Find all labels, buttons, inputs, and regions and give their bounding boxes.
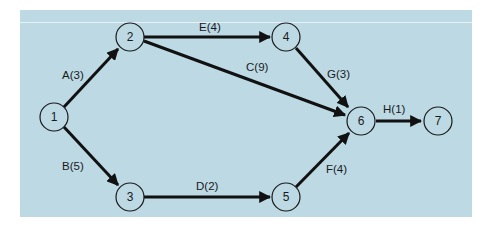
edge-c-label: C(9) (246, 61, 269, 73)
node-5-label: 5 (283, 190, 290, 204)
edge-e-label: E(4) (199, 21, 221, 33)
edge-c-arrow (144, 41, 345, 115)
edge-a: A(3) (62, 49, 118, 107)
node-7: 7 (424, 107, 452, 135)
edge-b-arrow (64, 127, 118, 185)
edge-b: B(5) (62, 127, 118, 185)
edge-h: H(1) (376, 103, 421, 121)
node-6-label: 6 (358, 114, 365, 128)
node-7-label: 7 (435, 114, 442, 128)
node-5: 5 (272, 183, 300, 211)
node-3: 3 (116, 183, 144, 211)
edge-d-label: D(2) (196, 180, 219, 192)
edge-g: G(3) (296, 48, 350, 107)
node-6: 6 (347, 107, 375, 135)
edge-c: C(9) (144, 41, 345, 115)
node-4: 4 (272, 23, 300, 51)
node-3-label: 3 (127, 190, 134, 204)
node-4-label: 4 (283, 30, 290, 44)
edge-g-label: G(3) (327, 68, 350, 80)
node-1-label: 1 (51, 110, 58, 124)
edge-f-label: F(4) (326, 163, 347, 175)
edge-h-label: H(1) (383, 103, 406, 115)
node-2: 2 (116, 23, 144, 51)
edge-d: D(2) (144, 180, 270, 197)
edge-f-arrow (296, 133, 349, 187)
network-diagram: A(3) B(5) C(9) D(2) E(4) F(4) G(3) H(1) … (0, 0, 490, 234)
edge-b-label: B(5) (62, 160, 84, 172)
edge-a-label: A(3) (62, 69, 84, 81)
node-1: 1 (40, 103, 68, 131)
edge-f: F(4) (296, 133, 349, 187)
edge-e: E(4) (144, 21, 270, 37)
node-2-label: 2 (127, 30, 134, 44)
